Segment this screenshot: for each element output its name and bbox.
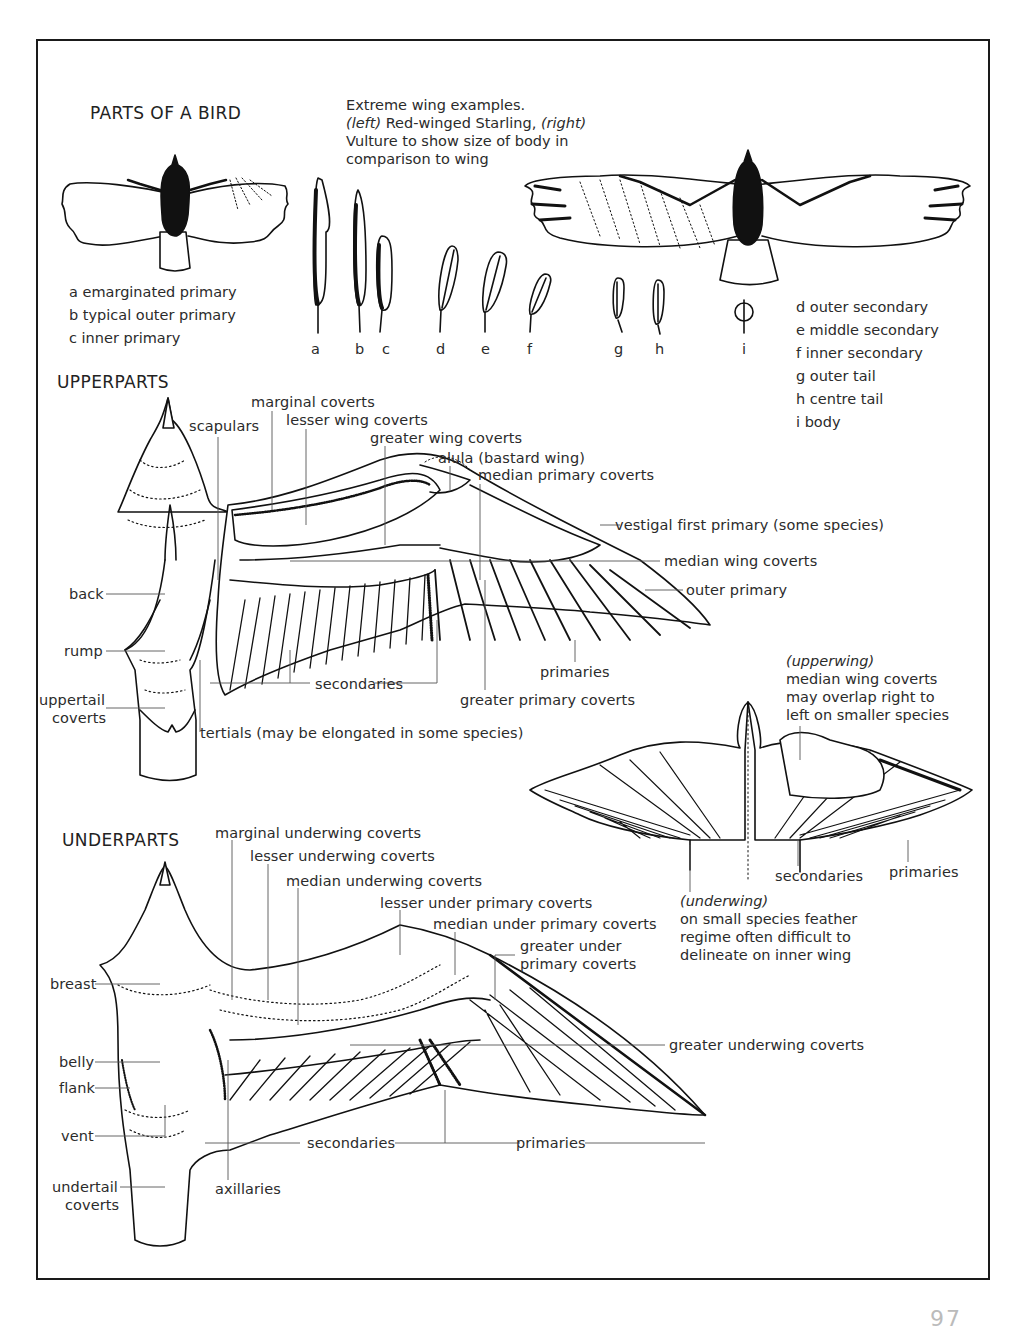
feather-letter-a: a [311, 341, 320, 358]
underwing-tag: (underwing) [680, 892, 857, 910]
label-greater-primary-coverts: greater primary coverts [460, 692, 635, 709]
underwing-note: (underwing) on small species feather reg… [680, 892, 857, 964]
legend-item: g outer tail [796, 365, 939, 388]
caption-left-text: Red-winged Starling, [381, 115, 541, 131]
label-secondaries-small: secondaries [775, 868, 863, 885]
label-back: back [69, 586, 104, 603]
legend-item: b typical outer primary [69, 304, 237, 327]
label-secondaries-upper: secondaries [315, 676, 403, 693]
label-secondaries-under: secondaries [307, 1135, 395, 1152]
label-vestigal-first-primary: vestigal first primary (some species) [615, 517, 884, 534]
underwing-note-line: regime often difficult to [680, 928, 857, 946]
label-primaries-upper: primaries [540, 664, 610, 681]
legend-item: c inner primary [69, 327, 237, 350]
label-undertail-coverts-1: undertail [52, 1179, 118, 1196]
label-scapulars: scapulars [189, 418, 259, 435]
upperwing-note-line: left on smaller species [786, 706, 949, 724]
caption-left-tag: (left) [346, 115, 381, 131]
feather-letter-b: b [355, 341, 364, 358]
label-rump: rump [64, 643, 103, 660]
feather-legend-right: d outer secondary e middle secondary f i… [796, 296, 939, 434]
feather-letter-d: d [436, 341, 445, 358]
label-greater-underwing-coverts: greater underwing coverts [669, 1037, 864, 1054]
caption-right-tag: (right) [541, 115, 586, 131]
page-title: PARTS OF A BIRD [90, 103, 241, 123]
wing-examples-caption: Extreme wing examples. (left) Red-winged… [346, 96, 586, 168]
underparts-heading: UNDERPARTS [62, 830, 179, 850]
caption-line-1: Extreme wing examples. [346, 96, 586, 114]
legend-item: d outer secondary [796, 296, 939, 319]
upperparts-illustration [118, 398, 710, 780]
upperwing-note: (upperwing) median wing coverts may over… [786, 652, 949, 724]
label-primaries-under: primaries [516, 1135, 586, 1152]
feather-letter-h: h [655, 341, 664, 358]
label-lesser-underwing-coverts: lesser underwing coverts [250, 848, 435, 865]
legend-item: a emarginated primary [69, 281, 237, 304]
label-breast: breast [50, 976, 97, 993]
label-greater-wing-coverts: greater wing coverts [370, 430, 522, 447]
starling-illustration [62, 155, 288, 271]
label-marginal-underwing-coverts: marginal underwing coverts [215, 825, 421, 842]
label-marginal-coverts: marginal coverts [251, 394, 375, 411]
label-tertials: tertials (may be elongated in some speci… [200, 725, 524, 742]
vulture-illustration [525, 150, 970, 285]
legend-item: i body [796, 411, 939, 434]
label-primaries-small: primaries [889, 864, 959, 881]
label-uppertail-coverts-1: uppertail [39, 692, 105, 709]
legend-item: h centre tail [796, 388, 939, 411]
caption-line-3: Vulture to show size of body in [346, 132, 586, 150]
label-lesser-under-primary-coverts: lesser under primary coverts [380, 895, 592, 912]
small-species-illustration [530, 702, 972, 880]
underwing-note-line: on small species feather [680, 910, 857, 928]
label-uppertail-coverts-2: coverts [52, 710, 106, 727]
page-number: 97 [930, 1306, 962, 1330]
upperwing-note-line: median wing coverts [786, 670, 949, 688]
label-median-wing-coverts: median wing coverts [664, 553, 817, 570]
feather-letter-f: f [527, 341, 532, 358]
label-flank: flank [59, 1080, 95, 1097]
feather-letter-i: i [742, 341, 746, 358]
feather-letter-c: c [382, 341, 390, 358]
feather-letter-g: g [614, 341, 623, 358]
feather-letter-e: e [481, 341, 490, 358]
caption-line-4: comparison to wing [346, 150, 586, 168]
caption-line-2: (left) Red-winged Starling, (right) [346, 114, 586, 132]
feather-legend-left: a emarginated primary b typical outer pr… [69, 281, 237, 350]
underwing-note-line: delineate on inner wing [680, 946, 857, 964]
label-lesser-wing-coverts: lesser wing coverts [286, 412, 428, 429]
label-greater-under-primary-coverts-1: greater under [520, 938, 622, 955]
label-outer-primary: outer primary [686, 582, 787, 599]
legend-item: f inner secondary [796, 342, 939, 365]
label-median-underwing-coverts: median underwing coverts [286, 873, 482, 890]
label-undertail-coverts-2: coverts [65, 1197, 119, 1214]
upperparts-heading: UPPERPARTS [57, 372, 169, 392]
label-belly: belly [59, 1054, 94, 1071]
label-median-primary-coverts: median primary coverts [478, 467, 654, 484]
label-alula: alula (bastard wing) [438, 450, 585, 467]
label-vent: vent [61, 1128, 94, 1145]
legend-item: e middle secondary [796, 319, 939, 342]
upperwing-note-line: may overlap right to [786, 688, 949, 706]
label-axillaries: axillaries [215, 1181, 281, 1198]
upperwing-tag: (upperwing) [786, 652, 949, 670]
label-greater-under-primary-coverts-2: primary coverts [520, 956, 636, 973]
label-median-under-primary-coverts: median under primary coverts [433, 916, 657, 933]
